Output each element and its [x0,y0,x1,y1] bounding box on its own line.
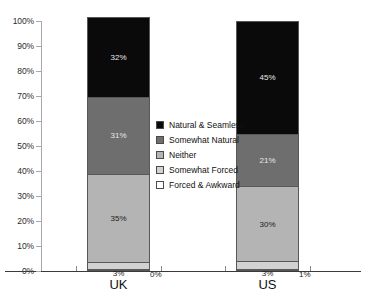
legend-item-label: Somewhat Forced [169,165,238,175]
y-axis-tick-label: 80% [17,67,34,76]
legend-item-label: Somewhat Natural [169,135,239,145]
bar-segment-value-label: 30% [259,220,275,229]
y-axis-tick-mark [36,21,41,22]
legend-item-label: Natural & Seamless [169,120,244,130]
legend-item-label: Forced & Awkward [169,180,240,190]
y-axis-tick-label: 60% [17,117,34,126]
bar-segment[interactable]: 31% [87,97,150,175]
y-axis-tick-mark [36,221,41,222]
y-axis-tick-mark [36,71,41,72]
y-axis: 0%10%20%30%40%50%60%70%80%90%100% [0,0,40,303]
legend-item[interactable]: Neither [156,147,244,162]
bar-segment[interactable]: 35% [87,174,150,262]
y-axis-tick-label: 70% [17,92,34,101]
x-axis-category-label: US [258,277,276,292]
y-axis-tick-mark [36,121,41,122]
x-axis-tick-mark [310,266,311,271]
stacked-bar-chart: 0%10%20%30%40%50%60%70%80%90%100% UKUS 0… [0,0,366,303]
bar-segment[interactable]: 21% [236,134,299,187]
y-axis-line [41,21,42,271]
y-axis-tick-label: 50% [17,142,34,151]
y-axis-tick-mark [36,196,41,197]
bar-segment-value-label: 35% [110,214,126,223]
legend-item[interactable]: Somewhat Natural [156,132,244,147]
bar-column[interactable]: 1%3%30%21%45% [236,21,299,271]
bar-segment[interactable]: 0% [87,269,150,271]
bar-segment[interactable]: 45% [236,21,299,134]
y-axis-tick-mark [36,46,41,47]
y-axis-tick-mark [36,96,41,97]
bar-column[interactable]: 0%3%35%31%32% [87,17,150,272]
x-axis-tick-mark [76,266,77,271]
legend-swatch-icon [156,181,164,189]
x-axis-tick-mark [225,266,226,271]
legend-swatch-icon [156,136,164,144]
bar-segment-value-label: 21% [259,156,275,165]
legend-item[interactable]: Somewhat Forced [156,162,244,177]
y-axis-tick-label: 90% [17,42,34,51]
y-axis-tick-mark [36,271,41,272]
legend-item-label: Neither [169,150,196,160]
y-axis-tick-label: 10% [17,242,34,251]
chart-legend: Natural & SeamlessSomewhat NaturalNeithe… [156,117,244,192]
legend-swatch-icon [156,151,164,159]
y-axis-tick-label: 40% [17,167,34,176]
legend-item[interactable]: Forced & Awkward [156,177,244,192]
y-axis-tick-label: 20% [17,217,34,226]
bar-segment[interactable]: 3% [236,261,299,269]
bar-segment-value-label: 32% [110,53,126,62]
bar-segment[interactable]: 3% [87,262,150,270]
legend-item[interactable]: Natural & Seamless [156,117,244,132]
y-axis-tick-label: 30% [17,192,34,201]
y-axis-tick-label: 100% [13,17,34,26]
bar-segment[interactable]: 30% [236,186,299,261]
bar-segment-value-label: 31% [110,131,126,140]
legend-swatch-icon [156,166,164,174]
bar-segment-value-label: 45% [259,73,275,82]
y-axis-tick-mark [36,146,41,147]
x-axis-tick-mark [161,266,162,271]
bar-segment[interactable]: 32% [87,17,150,97]
y-axis-tick-mark [36,246,41,247]
x-axis-category-label: UK [109,277,127,292]
legend-swatch-icon [156,121,164,129]
bar-segment[interactable]: 1% [236,269,299,272]
y-axis-tick-mark [36,171,41,172]
x-axis-line [5,271,361,272]
